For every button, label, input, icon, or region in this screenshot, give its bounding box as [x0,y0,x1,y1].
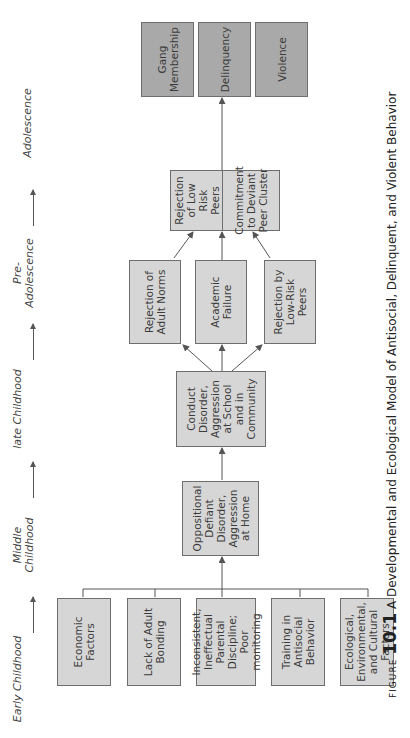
node-delinquency: Delinquency [198,22,251,97]
node-violence: Violence [255,22,308,97]
node-label: Conduct Disorder, Aggression at School a… [185,376,257,442]
node-label: Lack of Adult Bonding [142,603,166,681]
node-label: Rejection of Low Risk Peers [173,175,221,226]
node-label: Economic Factors [72,603,96,681]
node-conduct-disorder: Conduct Disorder, Aggression at School a… [176,371,266,447]
caption-text: A Developmental and Ecological Model of … [385,92,399,609]
node-label: Violence [276,37,288,82]
node-rejection-adult-norms: Rejection of Adult Norms [129,260,181,344]
node-label: Commitment to Deviant Peer Cluster [233,166,269,235]
node-label: Rejection by Low-Risk Peers [272,265,308,339]
node-academic-failure: Academic Failure [195,260,247,344]
node-label: Rejection of Adult Norms [143,265,167,339]
node-economic-factors: Economic Factors [57,598,111,686]
node-label: Training in Antisocial Behavior [280,603,316,681]
node-deviant-peer-cluster: Commitment to Deviant Peer Cluster [222,170,280,231]
node-parental-discipline: Inconsistent, Ineffectual Parental Disci… [196,598,256,686]
node-rejection-by-peers: Rejection by Low-Risk Peers [264,260,316,344]
node-label: Inconsistent, Ineffectual Parental Disci… [190,603,262,681]
node-label: Oppositional Defiant Disorder, Aggressio… [191,486,251,552]
node-gang-membership: Gang Membership [141,22,194,97]
caption-prefix: FIGURE [388,659,398,698]
node-lack-of-adult-bonding: Lack of Adult Bonding [127,598,181,686]
node-rejection-low-risk-peers: Rejection of Low Risk Peers [170,170,223,231]
node-label: Delinquency [219,27,231,92]
diagram-canvas: Early Childhood Middle Childhood late Ch… [0,0,410,738]
node-label: Gang Membership [156,27,180,92]
caption-number: 10.1 [380,613,400,655]
node-training-antisocial: Training in Antisocial Behavior [271,598,325,686]
node-oppositional-defiant: Oppositional Defiant Disorder, Aggressio… [182,481,259,556]
node-label: Academic Failure [209,265,233,339]
figure-caption: FIGURE 10.1 A Developmental and Ecologic… [380,0,400,698]
